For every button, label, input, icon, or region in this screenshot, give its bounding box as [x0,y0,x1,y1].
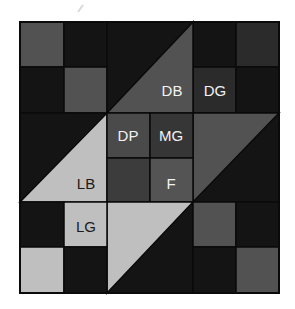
label-mg: MG [159,127,183,144]
square-r5-c1 [64,247,107,293]
square-r1-c1 [64,67,107,113]
square-r1-c5 [236,67,279,113]
square-r0-c5 [236,22,279,67]
square-center-dark [107,158,150,202]
scan-artifact [78,5,83,12]
square-r4-c0 [20,202,64,247]
quilt-block-diagram: DB DG DP MG LB F LG [0,0,295,309]
square-r0-c4 [193,22,236,67]
label-dp: DP [118,127,139,144]
label-lg: LG [76,218,96,235]
label-f: F [166,175,175,192]
square-r1-c0 [20,67,64,113]
label-lb: LB [77,175,95,192]
square-r0-c1 [64,22,107,67]
square-r5-c0 [20,247,64,293]
square-r0-c0 [20,22,64,67]
square-r5-c4 [193,247,236,293]
square-r4-c5 [236,202,279,247]
label-db: DB [162,82,183,99]
label-dg: DG [204,82,227,99]
square-r5-c5 [236,247,279,293]
square-r4-c4 [193,202,236,247]
